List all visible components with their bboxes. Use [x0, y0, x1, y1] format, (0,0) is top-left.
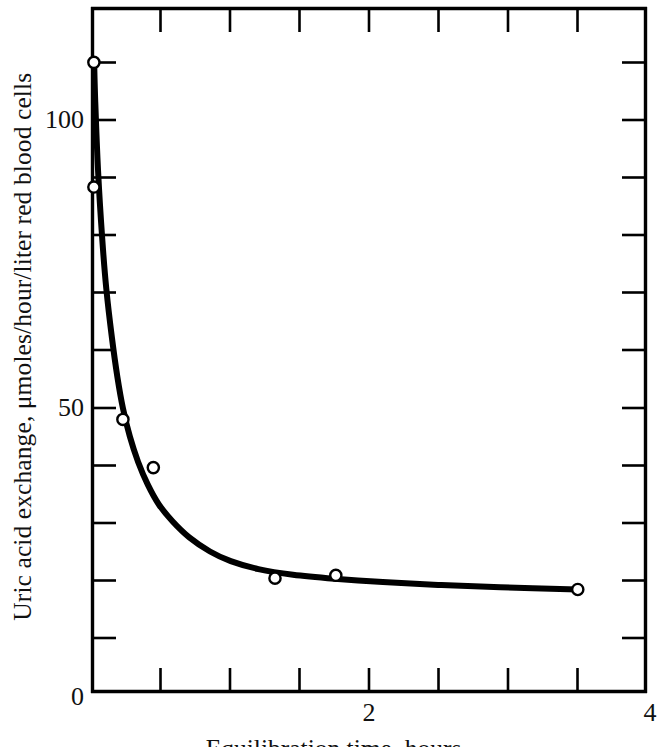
data-point [330, 570, 341, 581]
x-axis-ticks-top [161, 10, 578, 32]
plot-canvas [0, 0, 667, 747]
chart-figure: Uric acid exchange, μmoles/hour/liter re… [0, 0, 667, 747]
data-point [269, 573, 280, 584]
data-point [572, 584, 583, 595]
x-axis-ticks-bottom [161, 668, 578, 690]
data-point [117, 414, 128, 425]
y-axis-ticks-right [622, 63, 644, 639]
data-point [88, 57, 99, 68]
data-point [88, 181, 99, 192]
data-point [148, 462, 159, 473]
data-curve [94, 62, 578, 589]
